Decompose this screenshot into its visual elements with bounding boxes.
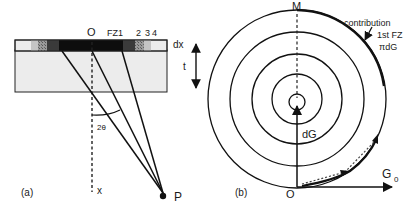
origin-label-a: O [87,26,96,38]
pi-dg-label: πdG [379,42,397,52]
angle-label: 2θ [97,123,106,132]
zone-label-4: 4 [152,28,157,38]
panel-b: M contribution 1st FZ πdG dG G 0 O (b) [208,0,403,200]
dg-label: dG [302,128,317,140]
panel-b-label: (b) [235,187,247,198]
slab [15,50,167,92]
first-fz-label: 1st FZ [377,30,403,40]
zone-label-3: 3 [145,28,150,38]
g0-label: G [382,167,391,181]
zone-label-fz1: FZ1 [107,28,123,38]
point-p [160,193,166,199]
diagram-canvas: O FZ1 2 3 4 dx t 2θ x P (a) [0,0,415,214]
g0-subscript: 0 [394,175,399,184]
phasor-curve [302,138,377,186]
contribution-pointer [365,27,372,40]
panel-a: O FZ1 2 3 4 dx t 2θ x P (a) [15,26,196,204]
fresnel-zone-strip [15,40,167,51]
x-label: x [97,185,102,196]
origin-label-b: O [286,188,295,200]
m-label: M [292,0,301,12]
panel-a-label: (a) [21,187,33,198]
zone-label-2: 2 [136,28,141,38]
dx-label: dx [173,39,184,50]
contribution-label: contribution [344,18,391,28]
t-label: t [183,61,186,72]
point-p-label: P [174,190,182,204]
